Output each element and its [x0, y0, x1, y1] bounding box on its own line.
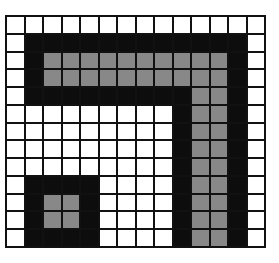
grid-cell-9-11 [211, 177, 228, 193]
grid-cell-7-1 [26, 141, 43, 157]
grid-cell-5-8 [155, 106, 172, 122]
grid-cell-5-4 [81, 106, 98, 122]
grid-cell-1-8 [155, 35, 172, 51]
grid-cell-9-13 [248, 177, 265, 193]
grid-cell-8-4 [81, 159, 98, 175]
grid-cell-8-7 [137, 159, 154, 175]
grid-cell-1-4 [81, 35, 98, 51]
grid-cell-8-10 [192, 159, 209, 175]
grid-cell-11-1 [26, 212, 43, 228]
grid-cell-2-11 [211, 53, 228, 69]
grid-cell-0-11 [211, 17, 228, 33]
grid-cell-6-7 [137, 124, 154, 140]
grid-cell-1-13 [248, 35, 265, 51]
grid-cell-0-5 [100, 17, 117, 33]
grid-cell-9-10 [192, 177, 209, 193]
grid-cell-6-6 [118, 124, 135, 140]
grid-cell-9-3 [63, 177, 80, 193]
grid-cell-8-6 [118, 159, 135, 175]
grid-cell-12-9 [174, 230, 191, 246]
grid-cell-7-12 [229, 141, 246, 157]
grid-cell-9-8 [155, 177, 172, 193]
grid-cell-2-3 [63, 53, 80, 69]
grid-cell-5-2 [44, 106, 61, 122]
grid-cell-6-0 [7, 124, 24, 140]
grid-cell-6-2 [44, 124, 61, 140]
grid-cell-10-13 [248, 195, 265, 211]
grid-cell-7-7 [137, 141, 154, 157]
grid-cell-5-7 [137, 106, 154, 122]
grid-cell-3-13 [248, 70, 265, 86]
grid-cell-7-0 [7, 141, 24, 157]
grid-cell-6-5 [100, 124, 117, 140]
grid-cell-8-8 [155, 159, 172, 175]
grid-cell-4-8 [155, 88, 172, 104]
grid-cell-3-10 [192, 70, 209, 86]
grid-cell-7-2 [44, 141, 61, 157]
grid-cell-10-5 [100, 195, 117, 211]
grid-cell-10-6 [118, 195, 135, 211]
grid-cell-12-0 [7, 230, 24, 246]
grid-cell-6-1 [26, 124, 43, 140]
grid-cell-3-0 [7, 70, 24, 86]
grid-cell-3-8 [155, 70, 172, 86]
grid-cell-5-3 [63, 106, 80, 122]
grid-cell-1-9 [174, 35, 191, 51]
grid-cell-5-6 [118, 106, 135, 122]
grid-cell-12-7 [137, 230, 154, 246]
grid-cell-1-12 [229, 35, 246, 51]
grid-cell-0-4 [81, 17, 98, 33]
grid-cell-8-12 [229, 159, 246, 175]
grid-cell-0-10 [192, 17, 209, 33]
grid-cell-4-2 [44, 88, 61, 104]
grid-cell-2-10 [192, 53, 209, 69]
grid-cell-2-7 [137, 53, 154, 69]
grid-cell-2-8 [155, 53, 172, 69]
grid-cell-2-13 [248, 53, 265, 69]
grid-cell-11-13 [248, 212, 265, 228]
grid-cell-5-0 [7, 106, 24, 122]
grid-cell-5-11 [211, 106, 228, 122]
grid-cell-0-1 [26, 17, 43, 33]
grid-cell-3-9 [174, 70, 191, 86]
grid-cell-11-2 [44, 212, 61, 228]
grid-cell-11-12 [229, 212, 246, 228]
grid-cell-12-11 [211, 230, 228, 246]
grid-cell-2-12 [229, 53, 246, 69]
grid-cell-10-9 [174, 195, 191, 211]
grid-cell-8-0 [7, 159, 24, 175]
grid-cell-2-9 [174, 53, 191, 69]
grid-cell-6-9 [174, 124, 191, 140]
grid-cell-11-7 [137, 212, 154, 228]
grid-cell-9-7 [137, 177, 154, 193]
grid-cell-6-3 [63, 124, 80, 140]
grid-cell-11-9 [174, 212, 191, 228]
grid-cell-11-11 [211, 212, 228, 228]
grid-cell-10-2 [44, 195, 61, 211]
grid-cell-0-3 [63, 17, 80, 33]
grid-cell-2-6 [118, 53, 135, 69]
grid-cell-11-0 [7, 212, 24, 228]
grid-cell-3-7 [137, 70, 154, 86]
grid-cell-7-9 [174, 141, 191, 157]
grid-cell-4-3 [63, 88, 80, 104]
grid-cell-10-0 [7, 195, 24, 211]
grid-cell-11-8 [155, 212, 172, 228]
grid-cell-8-1 [26, 159, 43, 175]
grid-cell-11-5 [100, 212, 117, 228]
grid-cell-1-7 [137, 35, 154, 51]
grid-cell-9-2 [44, 177, 61, 193]
grid-cell-6-11 [211, 124, 228, 140]
grid-cell-9-12 [229, 177, 246, 193]
grid-cell-9-5 [100, 177, 117, 193]
grid-cell-3-4 [81, 70, 98, 86]
grid-cell-2-1 [26, 53, 43, 69]
grid-cell-3-11 [211, 70, 228, 86]
grid-cell-4-5 [100, 88, 117, 104]
grid-cell-12-2 [44, 230, 61, 246]
grid-cell-12-3 [63, 230, 80, 246]
grid-cell-0-7 [137, 17, 154, 33]
grid-cell-7-8 [155, 141, 172, 157]
grid-cell-9-4 [81, 177, 98, 193]
grid-cell-1-6 [118, 35, 135, 51]
